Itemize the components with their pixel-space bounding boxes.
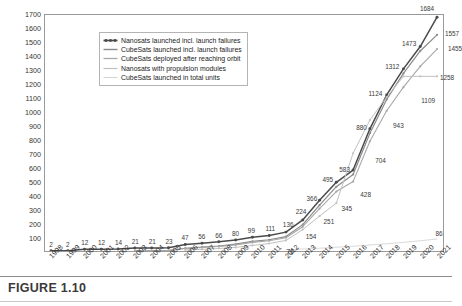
plot-area: 2212121421212347566680991111362243664955…	[44, 14, 444, 252]
series-marker	[184, 243, 187, 246]
y-axis-tick: 1500	[1, 38, 41, 47]
data-label: 704	[375, 157, 386, 164]
series-marker	[369, 132, 371, 134]
series-marker	[251, 241, 253, 243]
data-label: 1124	[369, 89, 383, 96]
data-label: 80	[232, 229, 239, 236]
data-label: 495	[322, 175, 333, 182]
series-marker	[352, 152, 354, 154]
data-label: 1473	[402, 39, 416, 46]
series-marker	[217, 240, 220, 243]
series-marker	[302, 226, 304, 228]
x-axis-tick-labels: 1998199920002001200220032004200520062007…	[44, 254, 444, 294]
legend-label: Nanosats launched incl. launch failures	[121, 36, 241, 45]
series-marker	[402, 75, 404, 77]
series-marker	[402, 67, 405, 70]
data-label: 583	[339, 166, 350, 173]
data-label: 2	[49, 240, 53, 247]
series-marker	[301, 218, 304, 221]
series-marker	[318, 204, 320, 206]
series-marker	[335, 181, 338, 184]
legend-line-swatch-icon	[103, 64, 118, 73]
y-axis-tick: 400	[1, 192, 41, 201]
chart-legend: Nanosats launched incl. launch failuresC…	[99, 32, 248, 86]
data-label: 1455	[448, 45, 462, 52]
data-label: 1312	[385, 63, 399, 70]
series-marker	[268, 234, 271, 237]
data-label: 86	[435, 229, 442, 236]
series-marker	[251, 244, 253, 246]
y-axis-tick: 600	[1, 164, 41, 173]
series-marker	[302, 229, 304, 231]
y-axis-tick: 1400	[1, 52, 41, 61]
y-axis-tick: 1300	[1, 66, 41, 75]
y-axis-tick: 1000	[1, 108, 41, 117]
data-label: 251	[324, 217, 335, 224]
series-marker	[234, 238, 237, 241]
data-label: 23	[166, 237, 173, 244]
series-marker	[318, 208, 320, 210]
legend-label: CubeSats launched in total units	[121, 73, 220, 82]
series-marker	[335, 190, 337, 192]
legend-label: Nanosats with propulsion modules	[121, 64, 226, 73]
data-label: 366	[307, 194, 318, 201]
data-label: 47	[181, 234, 188, 241]
data-label: 21	[132, 238, 139, 245]
legend-line-swatch-icon	[103, 54, 118, 63]
y-axis-tick: 300	[1, 206, 41, 215]
series-marker	[369, 140, 371, 142]
legend-item: CubeSats launched incl. launch failures	[103, 45, 242, 54]
caption-rule-top	[0, 276, 452, 277]
data-label: 12	[81, 239, 88, 246]
series-marker	[251, 236, 254, 239]
series-line	[185, 76, 437, 250]
series-marker	[352, 180, 354, 182]
series-marker	[284, 231, 287, 234]
series-marker	[386, 110, 388, 112]
y-axis-tick: 1700	[1, 10, 41, 19]
data-label: 21	[149, 238, 156, 245]
y-axis-tick: 500	[1, 178, 41, 187]
data-label: 154	[306, 233, 317, 240]
series-marker	[352, 173, 354, 175]
data-label: 136	[283, 220, 294, 227]
data-label: 880	[356, 123, 367, 130]
data-label: 1258	[440, 73, 454, 80]
legend-line-swatch-icon	[103, 36, 118, 45]
series-marker	[201, 242, 204, 245]
y-axis-tick: 900	[1, 122, 41, 131]
data-label: 345	[341, 204, 352, 211]
legend-item: Nanosats with propulsion modules	[103, 64, 242, 73]
y-axis-tick: 1200	[1, 80, 41, 89]
series-marker	[369, 119, 371, 121]
y-axis-tick: 1600	[1, 24, 41, 33]
series-marker	[285, 239, 287, 241]
data-label: 1109	[421, 96, 435, 103]
data-label: 224	[296, 207, 307, 214]
series-marker	[436, 75, 438, 77]
data-label: 12	[98, 239, 105, 246]
data-label: 428	[360, 191, 371, 198]
series-marker	[268, 242, 270, 244]
y-axis-tick: 200	[1, 220, 41, 229]
series-marker	[436, 34, 438, 36]
data-label: 1684	[420, 5, 434, 12]
series-marker	[235, 246, 237, 248]
legend-line-swatch-icon	[103, 73, 118, 82]
legend-line-swatch-icon	[103, 45, 118, 54]
series-marker	[419, 50, 421, 52]
series-marker	[318, 215, 320, 217]
series-marker	[268, 240, 270, 242]
data-label: 2	[66, 240, 70, 247]
series-marker	[218, 245, 220, 247]
data-label: 56	[198, 233, 205, 240]
series-marker	[235, 244, 237, 246]
series-marker	[402, 86, 404, 88]
data-label: 943	[393, 121, 404, 128]
data-label: 111	[265, 225, 275, 232]
series-marker	[285, 237, 287, 239]
data-label: 66	[215, 231, 222, 238]
series-marker	[419, 75, 421, 77]
figure-caption: FIGURE 1.10	[8, 281, 86, 295]
